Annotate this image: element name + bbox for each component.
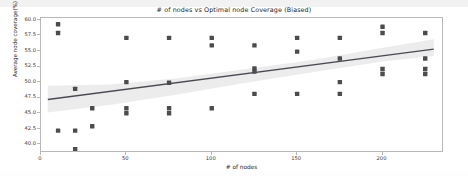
- scatter-point: [423, 72, 427, 76]
- chart-title: # of nodes vs Optimal node Coverage (Bia…: [0, 6, 468, 14]
- scatter-point: [124, 106, 128, 110]
- x-tick-mark: [40, 152, 41, 155]
- scatter-point: [73, 87, 77, 91]
- scatter-point: [73, 128, 77, 132]
- scatter-point: [380, 25, 384, 29]
- scatter-point: [338, 36, 342, 40]
- y-tick-mark: [37, 128, 40, 129]
- scatter-point: [56, 22, 60, 26]
- scatter-point: [252, 69, 256, 73]
- x-tick-mark: [211, 152, 212, 155]
- y-tick-mark: [37, 50, 40, 51]
- scatter-point: [90, 106, 94, 110]
- y-tick-label: 45.0: [0, 109, 36, 115]
- scatter-point: [124, 80, 128, 84]
- scatter-point: [167, 36, 171, 40]
- scatter-point: [167, 106, 171, 110]
- y-tick-mark: [37, 97, 40, 98]
- scatter-point: [423, 31, 427, 35]
- scatter-point: [90, 124, 94, 128]
- scatter-point: [124, 111, 128, 115]
- scatter-point: [124, 36, 128, 40]
- scatter-point: [210, 106, 214, 110]
- scatter-point: [73, 147, 77, 151]
- x-tick-label: 200: [377, 155, 387, 161]
- scatter-point: [56, 128, 60, 132]
- y-tick-label: 55.0: [0, 47, 36, 53]
- x-tick-mark: [125, 152, 126, 155]
- scatter-point: [423, 67, 427, 71]
- scatter-point: [295, 49, 299, 53]
- scatter-point: [338, 92, 342, 96]
- confidence-band: [48, 39, 434, 112]
- x-tick-mark: [382, 152, 383, 155]
- scatter-point: [423, 56, 427, 60]
- y-tick-label: 47.5: [0, 93, 36, 99]
- scatter-point: [210, 36, 214, 40]
- y-tick-label: 50.0: [0, 78, 36, 84]
- regression-line: [48, 49, 434, 99]
- y-tick-label: 57.5: [0, 31, 36, 37]
- scatter-point: [252, 92, 256, 96]
- confidence-band-group: [48, 39, 434, 112]
- y-tick-mark: [37, 143, 40, 144]
- scatter-point: [338, 80, 342, 84]
- scatter-point: [295, 92, 299, 96]
- scatter-point: [56, 31, 60, 35]
- x-tick-mark: [296, 152, 297, 155]
- y-tick-mark: [37, 34, 40, 35]
- y-tick-mark: [37, 81, 40, 82]
- scatter-point: [167, 111, 171, 115]
- scatter-point: [167, 81, 171, 85]
- x-tick-label: 100: [206, 155, 216, 161]
- y-tick-label: 40.0: [0, 140, 36, 146]
- plot-canvas: [41, 18, 443, 152]
- regression-line-group: [48, 49, 434, 99]
- scatter-point: [380, 31, 384, 35]
- scatter-point: [338, 56, 342, 60]
- x-tick-label: 150: [291, 155, 301, 161]
- plot-axes: [40, 17, 443, 152]
- figure-container: # of nodes vs Optimal node Coverage (Bia…: [0, 0, 468, 176]
- y-tick-label: 60.0: [0, 16, 36, 22]
- scatter-point: [210, 43, 214, 47]
- y-tick-mark: [37, 66, 40, 67]
- scatter-point: [380, 67, 384, 71]
- y-tick-mark: [37, 19, 40, 20]
- scatter-point: [252, 43, 256, 47]
- x-axis-label: # of nodes: [40, 164, 443, 170]
- figure-bottom-strip: [0, 171, 468, 176]
- x-tick-label: 50: [122, 155, 129, 161]
- y-tick-label: 42.5: [0, 125, 36, 131]
- scatter-point: [295, 36, 299, 40]
- x-tick-label: 0: [38, 155, 41, 161]
- scatter-point: [380, 72, 384, 76]
- y-tick-label: 52.5: [0, 62, 36, 68]
- y-tick-mark: [37, 112, 40, 113]
